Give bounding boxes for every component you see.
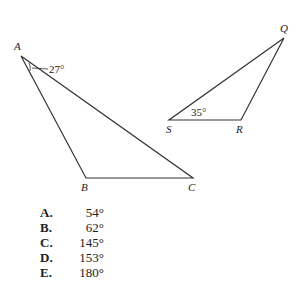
angle-a-label: 27° (49, 63, 64, 75)
vertex-c-label: C (188, 181, 195, 193)
choice-b[interactable]: B.62° (40, 220, 104, 235)
vertex-q-label: Q (280, 22, 288, 34)
triangle-abc (21, 56, 193, 178)
choice-letter: A. (40, 205, 66, 220)
choice-value: 62° (66, 220, 104, 235)
angle-a-arc (29, 63, 30, 71)
choice-value: 54° (66, 205, 104, 220)
choice-letter: C. (40, 235, 66, 250)
vertex-b-label: B (81, 181, 88, 193)
choice-c[interactable]: C.145° (40, 235, 104, 250)
triangle-qrs (169, 38, 284, 120)
choice-letter: B. (40, 220, 66, 235)
choice-letter: E. (40, 265, 66, 280)
vertex-r-label: R (236, 123, 243, 135)
angle-a-leader (32, 68, 48, 69)
choice-value: 180° (66, 265, 104, 280)
answer-choices: A.54° B.62° C.145° D.153° E.180° (40, 205, 104, 280)
choice-value: 153° (66, 250, 104, 265)
choice-a[interactable]: A.54° (40, 205, 104, 220)
vertex-a-label: A (14, 40, 21, 52)
vertex-s-label: S (166, 123, 172, 135)
choice-e[interactable]: E.180° (40, 265, 104, 280)
angle-s-label: 35° (191, 106, 206, 118)
choice-d[interactable]: D.153° (40, 250, 104, 265)
choice-value: 145° (66, 235, 104, 250)
choice-letter: D. (40, 250, 66, 265)
